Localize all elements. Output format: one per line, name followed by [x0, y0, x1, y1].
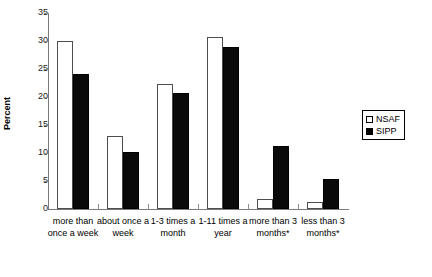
bar-nsaf-2 [107, 136, 123, 209]
bar-nsaf-3 [157, 84, 173, 209]
x-axis-label-line: months* [292, 227, 354, 239]
x-axis-group-separator [148, 204, 149, 210]
bar-sipp-6 [323, 179, 339, 209]
bar-chart: Percent 05101520253035 more thanonce a w… [0, 0, 432, 277]
y-axis-tick-label: 0 [20, 203, 48, 214]
bar-nsaf-6 [307, 202, 323, 209]
filled-square-icon [366, 128, 373, 135]
bar-sipp-2 [123, 152, 139, 209]
bar-sipp-1 [73, 74, 89, 209]
x-axis-group-separator [298, 204, 299, 210]
x-axis-group-separator [198, 204, 199, 210]
legend-item-nsaf[interactable]: NSAF [366, 113, 400, 125]
chart-legend: NSAFSIPP [362, 110, 405, 140]
x-axis-label: less than 3months* [292, 215, 354, 239]
open-square-icon [366, 116, 373, 123]
bar-nsaf-4 [207, 37, 223, 209]
x-axis-group-separator [248, 204, 249, 210]
plot-area [48, 13, 348, 209]
legend-item-sipp[interactable]: SIPP [366, 125, 400, 137]
bar-sipp-3 [173, 93, 189, 209]
bar-nsaf-1 [57, 41, 73, 209]
x-axis-label-line: less than 3 [292, 215, 354, 227]
x-axis-group-separator [98, 204, 99, 210]
y-axis-title: Percent [2, 78, 16, 148]
bar-sipp-5 [273, 146, 289, 209]
legend-label: NSAF [376, 114, 400, 124]
bar-sipp-4 [223, 47, 239, 209]
legend-label: SIPP [376, 126, 397, 136]
bar-nsaf-5 [257, 199, 273, 209]
